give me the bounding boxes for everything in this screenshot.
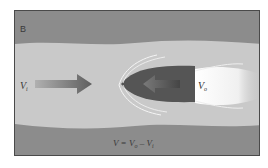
eq-equals: = bbox=[118, 138, 129, 148]
water-velocity-label: Vi bbox=[20, 81, 28, 92]
velocity-equation: V = Vo – Vi bbox=[113, 139, 154, 149]
diagram-panel: B Vi Vo V = Vo – Vi bbox=[14, 10, 260, 156]
panel-letter: B bbox=[20, 24, 26, 34]
vo-sub: o bbox=[204, 86, 207, 92]
flow-diagram bbox=[15, 11, 260, 156]
vi-sub: i bbox=[26, 86, 28, 92]
jet-velocity-label: Vo bbox=[198, 81, 207, 92]
eq-v2-sub: i bbox=[152, 143, 154, 149]
